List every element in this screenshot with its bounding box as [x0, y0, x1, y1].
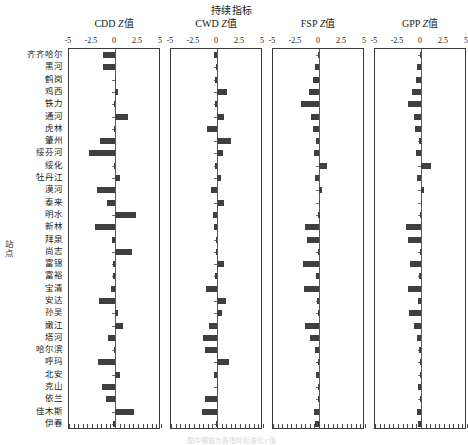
bar — [304, 286, 319, 292]
station-label: 孙吴 — [45, 308, 63, 317]
x-minor-tick — [176, 424, 177, 428]
bar — [213, 212, 217, 218]
x-minor-tick — [324, 424, 325, 428]
zero-reference-line — [217, 49, 218, 428]
bar — [315, 421, 319, 427]
bar — [216, 421, 217, 427]
bar — [114, 347, 115, 353]
station-label: 绥化 — [45, 161, 63, 170]
station-label: 北安 — [45, 369, 63, 378]
station-label: 富裕 — [45, 271, 63, 280]
station-label: 佳木斯 — [36, 406, 63, 415]
bar — [318, 384, 319, 390]
x-minor-tick — [147, 424, 148, 428]
x-minor-tick — [115, 424, 116, 428]
x-minor-tick — [347, 424, 348, 428]
x-minor-tick — [301, 424, 302, 428]
bar — [319, 187, 322, 193]
station-label: 富锦 — [45, 259, 63, 268]
panel-title-gpp: GPP Z值 — [374, 15, 466, 30]
x-minor-tick — [143, 424, 144, 428]
x-minor-tick — [87, 424, 88, 428]
zero-reference-line — [319, 49, 320, 428]
x-minor-tick — [235, 424, 236, 428]
x-minor-tick — [453, 424, 454, 428]
bar — [421, 187, 424, 193]
bar — [114, 163, 115, 169]
bar — [107, 200, 115, 206]
x-minor-tick — [74, 424, 75, 428]
x-minor-tick — [384, 424, 385, 428]
station-label: 铁力 — [45, 99, 63, 108]
bar — [319, 163, 327, 169]
x-minor-tick — [393, 424, 394, 428]
x-minor-tick — [78, 424, 79, 428]
x-minor-tick — [161, 424, 162, 428]
x-minor-tick — [101, 424, 102, 428]
station-label: 尚志 — [45, 247, 63, 256]
bar — [318, 310, 319, 316]
bar — [318, 396, 319, 402]
bar — [113, 261, 115, 267]
x-minor-tick — [83, 424, 84, 428]
x-minor-tick — [291, 424, 292, 428]
bar — [203, 335, 217, 341]
bar — [303, 261, 319, 267]
bar — [217, 261, 224, 267]
bar — [315, 175, 319, 181]
bar — [103, 64, 115, 70]
bar — [115, 77, 116, 83]
station-label: 伊春 — [45, 419, 63, 428]
bar — [217, 114, 224, 120]
bar — [99, 298, 115, 304]
bar — [414, 323, 421, 329]
x-minor-tick — [203, 424, 204, 428]
bar — [216, 249, 217, 255]
bar — [318, 359, 319, 365]
bar — [217, 175, 221, 181]
bar — [315, 64, 319, 70]
x-minor-tick — [337, 424, 338, 428]
x-minor-tick — [124, 424, 125, 428]
x-minor-tick — [258, 424, 259, 428]
x-minor-tick — [245, 424, 246, 428]
bar — [319, 200, 320, 206]
bar — [310, 335, 319, 341]
station-label-column: 齐齐哈尔黑河鹤岗鸡西铁力通河虎林肇州绥芬河绥化牡丹江漠河泰来明水新林拜泉尚志富锦… — [0, 48, 66, 429]
bar — [417, 64, 421, 70]
bar — [406, 224, 421, 230]
bar — [313, 126, 319, 132]
bar — [420, 249, 421, 255]
x-minor-tick — [152, 424, 153, 428]
x-minor-tick — [133, 424, 134, 428]
x-minor-tick — [462, 424, 463, 428]
x-minor-tick — [351, 424, 352, 428]
bar — [215, 163, 217, 169]
x-minor-tick — [254, 424, 255, 428]
bar — [205, 396, 217, 402]
station-label: 虎林 — [45, 124, 63, 133]
bar — [416, 150, 421, 156]
bar — [205, 347, 217, 353]
bar — [217, 200, 224, 206]
x-minor-tick — [156, 424, 157, 428]
bar — [215, 273, 217, 279]
bar — [103, 52, 115, 58]
bar — [115, 372, 120, 378]
bar — [102, 384, 115, 390]
figure-caption: 图中横轴为各指标标准化Z值 — [0, 435, 463, 445]
plot-area-gpp — [374, 48, 466, 429]
bar — [214, 52, 217, 58]
bar — [207, 126, 217, 132]
bar — [305, 323, 319, 329]
x-minor-tick — [356, 424, 357, 428]
bar — [421, 200, 422, 206]
station-label: 泰来 — [45, 197, 63, 206]
bar — [115, 249, 132, 255]
x-minor-tick — [231, 424, 232, 428]
x-minor-tick — [240, 424, 241, 428]
bar — [415, 126, 421, 132]
bar — [113, 421, 115, 427]
bar — [217, 138, 231, 144]
